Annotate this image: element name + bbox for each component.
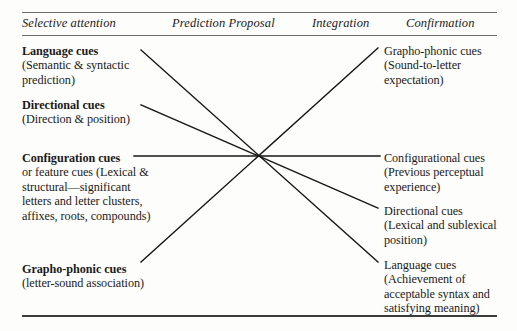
table-top-rule (22, 12, 497, 13)
right-block-directional-cues-body: (Lexical and sublexical position) (384, 218, 506, 247)
left-block-configuration-cues-body: or feature cues (Lexical & structural—si… (22, 165, 157, 223)
cueing-systems-figure: Selective attention Prediction Proposal … (0, 0, 517, 331)
column-header-integration: Integration (312, 14, 369, 33)
column-header-prediction-proposal: Prediction Proposal (172, 14, 275, 33)
left-block-language-cues-body: (Semantic & syntactic prediction) (22, 58, 157, 87)
right-block-configurational-cues-body: (Previous perceptual experience) (384, 165, 506, 194)
left-block-directional-cues-body: (Direction & position) (22, 112, 157, 126)
left-block-configuration-cues-heading: Configuration cues (22, 151, 157, 165)
left-block-configuration-cues: Configuration cues or feature cues (Lexi… (22, 151, 157, 223)
left-block-directional-cues-heading: Directional cues (22, 98, 157, 112)
connector-directional-to-directional (141, 105, 378, 208)
column-header-confirmation: Confirmation (406, 14, 475, 33)
left-block-language-cues-heading: Language cues (22, 44, 157, 58)
column-header-selective-attention: Selective attention (22, 14, 116, 33)
right-block-language-cues-heading: Language cues (384, 258, 506, 272)
right-block-configurational-cues-heading: Configurational cues (384, 151, 506, 165)
connector-graphophonic-to-graphophonic (141, 48, 378, 262)
right-block-language-cues: Language cues (Achievement of acceptable… (384, 258, 506, 316)
right-block-configurational-cues: Configurational cues (Previous perceptua… (384, 151, 506, 194)
right-block-directional-cues-heading: Directional cues (384, 204, 506, 218)
right-block-directional-cues: Directional cues (Lexical and sublexical… (384, 204, 506, 247)
header-bottom-rule (22, 35, 497, 36)
right-block-grapho-phonic-cues-body: (Sound-to-letter expectation) (384, 58, 506, 87)
right-block-grapho-phonic-cues-heading: Grapho-phonic cues (384, 44, 506, 58)
left-block-directional-cues: Directional cues (Direction & position) (22, 98, 157, 127)
connector-language-to-language (141, 50, 378, 262)
left-block-grapho-phonic-cues: Grapho-phonic cues (letter-sound associa… (22, 262, 157, 291)
column-header-row: Selective attention Prediction Proposal … (22, 14, 497, 34)
right-block-grapho-phonic-cues: Grapho-phonic cues (Sound-to-letter expe… (384, 44, 506, 87)
left-block-language-cues: Language cues (Semantic & syntactic pred… (22, 44, 157, 87)
left-block-grapho-phonic-cues-body: (letter-sound association) (22, 276, 157, 290)
left-block-grapho-phonic-cues-heading: Grapho-phonic cues (22, 262, 157, 276)
right-block-language-cues-body: (Achievement of acceptable syntax and sa… (384, 272, 506, 315)
